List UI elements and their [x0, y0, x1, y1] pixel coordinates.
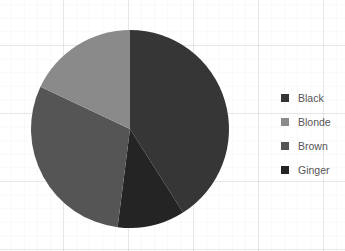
- legend-label: Ginger: [298, 164, 330, 176]
- legend-label: Brown: [298, 140, 328, 152]
- legend-item-ginger[interactable]: Ginger: [281, 158, 331, 182]
- legend-swatch-icon: [281, 166, 289, 174]
- pie-slices: [31, 30, 229, 228]
- legend-label: Black: [298, 92, 324, 104]
- pie-chart: Black Blonde Brown Ginger: [0, 0, 345, 251]
- chart-legend: Black Blonde Brown Ginger: [281, 86, 331, 182]
- legend-item-brown[interactable]: Brown: [281, 134, 331, 158]
- legend-swatch-icon: [281, 142, 289, 150]
- legend-swatch-icon: [281, 94, 289, 102]
- legend-label: Blonde: [298, 116, 331, 128]
- legend-item-black[interactable]: Black: [281, 86, 331, 110]
- legend-swatch-icon: [281, 118, 289, 126]
- legend-item-blonde[interactable]: Blonde: [281, 110, 331, 134]
